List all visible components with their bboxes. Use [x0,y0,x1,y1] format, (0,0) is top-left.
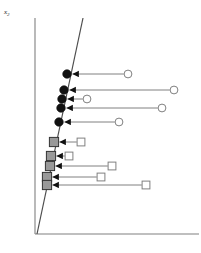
open-circle-marker [170,86,178,94]
open-square-marker [142,181,150,189]
filled-square-marker [49,137,58,146]
filled-square-marker [46,151,55,160]
open-circle-marker [158,104,166,112]
plot-canvas [0,0,201,253]
filled-circle-marker [58,95,67,104]
filled-square-marker [42,180,51,189]
open-circle-marker [115,118,123,126]
filled-square-marker [45,161,54,170]
open-circle-marker [124,70,132,78]
filled-circle-marker [63,70,72,79]
filled-circle-marker [55,118,64,127]
open-square-marker [77,138,85,146]
data-markers-group [42,70,178,190]
figure-container: x2 [0,0,201,253]
open-square-marker [97,173,105,181]
filled-circle-marker [60,86,69,95]
open-square-marker [108,162,116,170]
open-circle-marker [83,95,91,103]
open-square-marker [65,152,73,160]
filled-circle-marker [57,104,66,113]
